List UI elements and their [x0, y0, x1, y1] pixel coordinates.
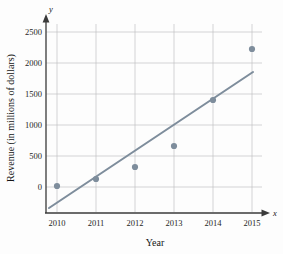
y-tick-2500: 2500 — [25, 27, 42, 37]
x-tick-2013: 2013 — [166, 218, 183, 228]
y-axis-title: Revenue (in millions of dollars) — [5, 54, 17, 182]
y-tick-2000: 2000 — [25, 58, 42, 68]
x-tick-2010: 2010 — [49, 218, 66, 228]
data-point-2010 — [54, 183, 60, 189]
data-point-2014 — [210, 97, 216, 103]
x-tick-labels: 2010 2011 2012 2013 2014 2015 — [49, 218, 261, 228]
x-axis — [45, 210, 270, 217]
x-tick-2015: 2015 — [244, 218, 261, 228]
y-tick-1500: 1500 — [25, 89, 42, 99]
trend-line — [49, 72, 253, 208]
y-tick-0: 0 — [38, 182, 42, 192]
scatter-plot: 2500 2000 1500 1000 500 0 2010 2011 2012… — [0, 0, 283, 254]
y-tick-1000: 1000 — [25, 120, 42, 130]
data-point-2011 — [93, 176, 99, 182]
y-axis-arrow-icon — [43, 14, 50, 23]
x-tick-2014: 2014 — [205, 218, 223, 228]
data-point-2015 — [249, 46, 255, 52]
x-axis-title: Year — [146, 237, 165, 248]
x-axis-variable-label: x — [272, 208, 277, 218]
data-points — [54, 46, 255, 189]
y-tick-labels: 2500 2000 1500 1000 500 0 — [25, 27, 42, 192]
x-axis-arrow-icon — [262, 210, 271, 217]
y-tick-500: 500 — [29, 151, 42, 161]
x-tick-2012: 2012 — [127, 218, 144, 228]
y-axis-variable-label: y — [48, 4, 53, 14]
data-point-2012 — [132, 164, 138, 170]
x-tick-2011: 2011 — [88, 218, 105, 228]
y-axis — [43, 14, 50, 213]
chart-figure: 2500 2000 1500 1000 500 0 2010 2011 2012… — [0, 0, 283, 254]
data-point-2013 — [171, 143, 177, 149]
horizontal-gridlines — [46, 32, 262, 187]
